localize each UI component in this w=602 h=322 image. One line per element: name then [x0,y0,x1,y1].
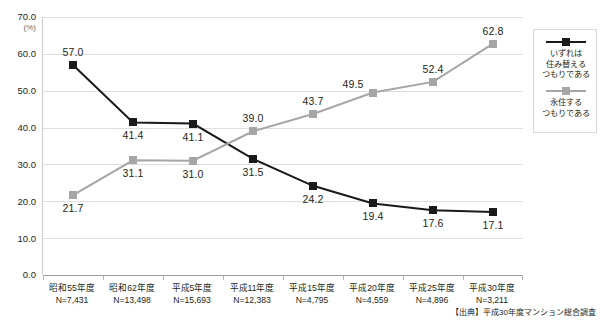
data-point-marker [129,156,137,164]
y-axis-unit: (%) [24,23,36,32]
data-point-marker [249,155,257,163]
y-tick-label: 30.0 [18,160,37,170]
x-category-2: 平成5年度 N=15,693 [162,283,222,306]
data-point-label: 39.0 [243,113,264,124]
x-tick [43,275,44,280]
plot-area: 57.041.441.131.524.219.417.617.121.731.1… [42,17,523,275]
x-tick [463,275,464,280]
data-point-marker [369,199,377,207]
data-point-marker [189,120,197,128]
x-category-n: N=4,896 [402,295,462,307]
y-tick-label: 40.0 [18,123,37,133]
data-point-label: 19.4 [363,211,384,222]
data-point-marker [189,157,197,165]
source-note: 【出典】平成30年度マンション総合調査 [451,308,596,318]
data-point-marker [369,89,377,97]
y-tick-label: 60.0 [18,49,37,59]
chart-figure: 70.0 (%) 60.0 50.0 40.0 30.0 20.0 10.0 0… [0,0,602,322]
y-tick-label: 10.0 [18,234,37,244]
chart-legend: いずれは 住み替える つもりである 永住する つもりである [533,29,597,133]
data-point-marker [129,118,137,126]
x-category-5: 平成20年度 N=4,559 [342,283,402,306]
data-point-label: 17.6 [423,218,444,229]
x-tick [522,275,523,280]
x-tick [403,275,404,280]
x-category-n: N=12,383 [222,295,282,307]
data-point-label: 43.7 [303,96,324,107]
legend-label-line: いずれは [534,49,598,60]
data-point-marker [429,206,437,214]
legend-label-line: 住み替える [534,60,598,71]
data-point-marker [69,61,77,69]
x-category-label: 平成30年度 [469,283,515,293]
y-tick-label: 0.0 [23,270,36,280]
x-category-label: 平成11年度 [230,283,275,293]
x-category-3: 平成11年度 N=12,383 [222,283,282,306]
x-category-6: 平成25年度 N=4,896 [402,283,462,306]
legend-key-light-icon [546,86,586,95]
x-category-label: 平成20年度 [349,283,395,293]
x-category-n: N=7,431 [42,295,102,307]
data-point-marker [69,191,77,199]
x-tick [163,275,164,280]
x-tick [103,275,104,280]
data-point-label: 21.7 [63,203,84,214]
x-axis-categories: 昭和55年度 N=7,431 昭和62年度 N=13,498 平成5年度 N=1… [42,283,522,311]
y-axis: 70.0 (%) 60.0 50.0 40.0 30.0 20.0 10.0 0… [0,0,40,322]
y-tick-label: 50.0 [18,86,37,96]
legend-item-series-1[interactable]: 永住する つもりである [534,86,598,119]
data-point-label: 31.0 [183,169,204,180]
data-point-marker [489,208,497,216]
data-point-label: 41.1 [183,132,204,143]
x-category-n: N=3,211 [462,295,522,307]
x-category-1: 昭和62年度 N=13,498 [102,283,162,306]
x-category-n: N=13,498 [102,295,162,307]
data-point-label: 31.5 [243,167,264,178]
x-tick [223,275,224,280]
data-point-marker [489,40,497,48]
data-point-marker [309,182,317,190]
x-category-n: N=4,559 [342,295,402,307]
x-category-7: 平成30年度 N=3,211 [462,283,522,306]
legend-item-series-0[interactable]: いずれは 住み替える つもりである [534,37,598,81]
data-point-marker [249,127,257,135]
data-point-label: 57.0 [63,47,84,58]
x-tick [283,275,284,280]
legend-key-dark-icon [546,37,586,46]
data-point-marker [429,78,437,86]
x-category-0: 昭和55年度 N=7,431 [42,283,102,306]
data-point-label: 17.1 [483,220,504,231]
x-category-label: 平成15年度 [289,283,335,293]
x-category-label: 昭和55年度 [49,283,95,293]
x-category-4: 平成15年度 N=4,795 [282,283,342,306]
x-category-label: 平成5年度 [172,283,213,293]
data-point-label: 62.8 [483,26,504,37]
data-point-label: 52.4 [423,64,444,75]
data-point-label: 31.1 [123,168,144,179]
x-tick [343,275,344,280]
y-tick-label: 20.0 [18,197,37,207]
x-category-n: N=15,693 [162,295,222,307]
data-point-label: 24.2 [303,194,324,205]
data-point-label: 41.4 [123,130,144,141]
data-point-marker [309,110,317,118]
x-category-label: 昭和62年度 [109,283,155,293]
series-points: 57.041.441.131.524.219.417.617.121.731.1… [43,17,523,275]
data-point-label: 49.5 [343,79,364,90]
x-category-n: N=4,795 [282,295,342,307]
legend-label-line: つもりである [534,109,598,120]
legend-label-line: 永住する [534,98,598,109]
y-tick-label: 70.0 [18,12,37,22]
legend-label-line: つもりである [534,70,598,81]
x-category-label: 平成25年度 [409,283,455,293]
